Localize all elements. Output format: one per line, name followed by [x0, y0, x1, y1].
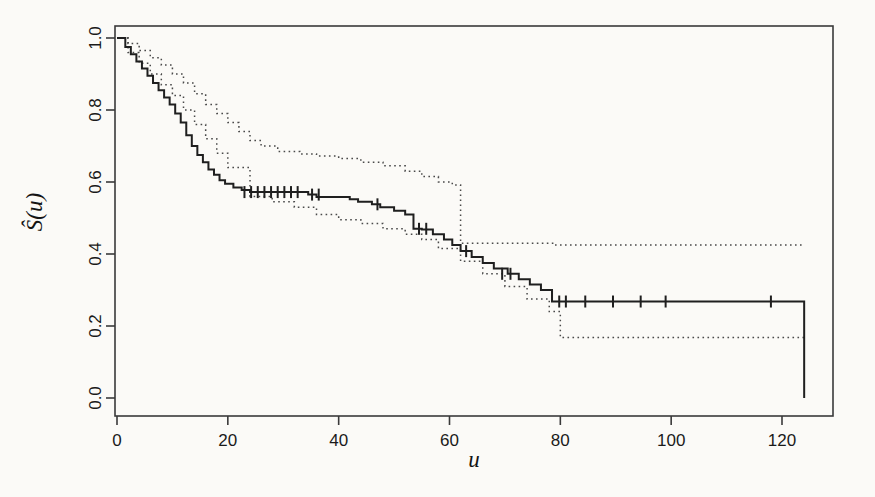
kaplan-meier-plot: 020406080100120 0.00.20.40.60.81.0 u Ŝ(… [0, 0, 875, 497]
plot-border [115, 26, 833, 416]
x-axis-title: u [468, 447, 480, 472]
x-tick-label: 80 [551, 431, 570, 450]
survival-curve-layer [117, 38, 804, 398]
censoring-marks-layer [244, 186, 770, 307]
lower-confidence-band [117, 38, 804, 338]
y-tick-label: 0.8 [86, 98, 105, 122]
confidence-band-layer [117, 38, 804, 338]
km-survival-curve [117, 38, 804, 398]
y-tick-label: 0.6 [86, 170, 105, 194]
x-axis-ticks: 020406080100120 [112, 416, 796, 450]
x-tick-label: 40 [329, 431, 348, 450]
upper-confidence-band [117, 38, 804, 245]
y-tick-label: 0.4 [86, 242, 105, 266]
y-axis-title: Ŝ(u) [21, 193, 47, 231]
x-tick-label: 20 [218, 431, 237, 450]
x-tick-label: 0 [112, 431, 121, 450]
y-tick-label: 0.2 [86, 314, 105, 338]
y-tick-label: 1.0 [86, 26, 105, 50]
x-tick-label: 120 [768, 431, 796, 450]
y-tick-label: 0.0 [86, 386, 105, 410]
y-axis-ticks: 0.00.20.40.60.81.0 [86, 26, 116, 410]
x-tick-label: 60 [440, 431, 459, 450]
x-tick-label: 100 [657, 431, 685, 450]
figure-canvas: 020406080100120 0.00.20.40.60.81.0 u Ŝ(… [0, 0, 875, 497]
plot-frame [115, 26, 833, 416]
